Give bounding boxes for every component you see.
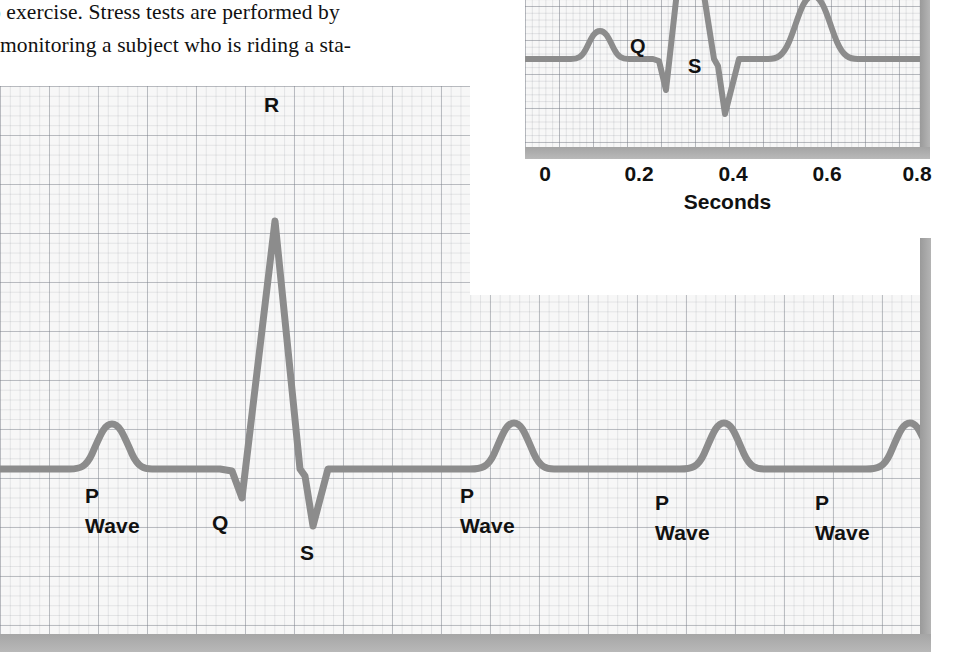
body-paragraph: o exercise. Stress tests are performed b… [0,0,470,62]
inset-tick-0: 0 [539,162,551,186]
main-label-wave-1: Wave [85,511,140,541]
main-label-p-wave-1: P Wave [85,481,140,541]
main-label-wave-3: Wave [655,518,710,548]
main-label-p-wave-3: P Wave [655,488,710,548]
inset-x-axis-ticks: 0 0.2 0.4 0.6 0.8 [525,162,930,188]
inset-panel-bottom-edge [525,147,930,159]
main-label-p-1: P [85,481,140,511]
body-text-line-1: o exercise. Stress tests are performed b… [0,0,470,29]
inset-label-q: Q [630,35,646,58]
inset-panel-right-edge [920,0,930,147]
inset-tick-0-2: 0.2 [624,162,653,186]
main-label-p-wave-2: P Wave [460,481,515,541]
main-label-r: R [264,93,279,117]
inset-tick-0-4: 0.4 [718,162,747,186]
inset-x-axis-title: Seconds [525,190,930,214]
main-label-q: Q [212,511,229,535]
main-label-s: S [300,541,314,565]
main-panel-bottom-edge [0,634,931,652]
inset-tick-0-8: 0.8 [902,162,931,186]
main-label-p-2: P [460,481,515,511]
main-label-wave-4: Wave [815,518,870,548]
inset-label-s: S [688,55,701,78]
ecg-trace-inset [525,0,920,147]
inset-tick-0-6: 0.6 [812,162,841,186]
main-label-p-3: P [655,488,710,518]
main-label-p-4: P [815,488,870,518]
main-label-wave-2: Wave [460,511,515,541]
main-label-p-wave-4: P Wave [815,488,870,548]
ecg-single-beat-inset-panel: P R Q S T 0 0.2 0.4 0.6 0.8 Seconds [470,0,960,238]
body-text-line-2: monitoring a subject who is riding a sta… [0,29,470,62]
